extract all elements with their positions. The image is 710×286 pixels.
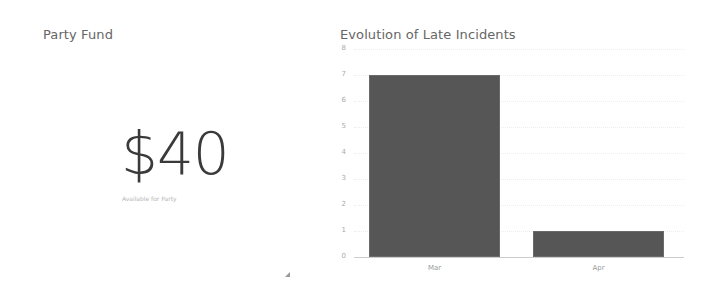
party-fund-title: Party Fund — [43, 27, 113, 42]
x-axis-line — [354, 257, 684, 258]
gridline — [354, 49, 684, 50]
bar-chart: 012345678 MarApr — [330, 40, 700, 280]
x-tick-label: Apr — [569, 264, 629, 272]
y-tick-label: 8 — [338, 44, 346, 52]
bar-mar[interactable] — [369, 75, 500, 257]
y-tick-label: 1 — [338, 226, 346, 234]
bar-apr[interactable] — [533, 231, 664, 257]
y-tick-label: 2 — [338, 200, 346, 208]
y-tick-label: 7 — [338, 70, 346, 78]
resize-handle-icon[interactable] — [285, 272, 290, 277]
y-tick-label: 5 — [338, 122, 346, 130]
y-tick-label: 6 — [338, 96, 346, 104]
fund-subtitle: Available for Party — [122, 195, 177, 202]
fund-amount: $40 — [121, 119, 229, 189]
y-tick-label: 0 — [338, 252, 346, 260]
y-tick-label: 4 — [338, 148, 346, 156]
x-tick-label: Mar — [405, 264, 465, 272]
y-tick-label: 3 — [338, 174, 346, 182]
